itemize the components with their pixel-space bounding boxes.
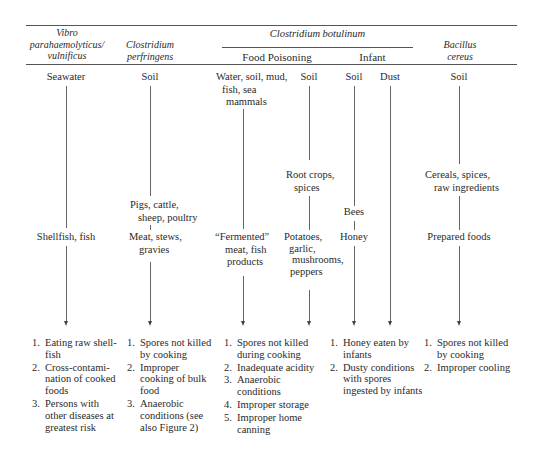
factor-number: 2. xyxy=(32,362,40,374)
factor-text: greatest risk xyxy=(45,422,122,434)
header-bacillus-line: cereus xyxy=(425,51,495,63)
factor-number: 3. xyxy=(32,398,40,410)
factor-item: 2.Cross-contami-nation of cookedfoods xyxy=(32,362,122,397)
factor-text: other diseases at xyxy=(45,410,122,422)
header-vibrio: Vibro parahaemolyticus/ vulnificus xyxy=(26,27,108,62)
source-perfringens: Soil xyxy=(110,71,190,84)
food-line: garlic, xyxy=(284,243,344,255)
factor-text: Improper cooling xyxy=(437,362,524,374)
botulinum-subheader-rule xyxy=(222,47,413,48)
factors-food-poisoning: 1.Spores not killedduring cooking2.Inade… xyxy=(224,337,324,436)
factor-text: canning xyxy=(237,424,324,436)
header-food-poisoning: Food Poisoning xyxy=(222,51,332,64)
flow-line xyxy=(150,86,151,196)
factor-item: 5.Improper homecanning xyxy=(224,412,324,436)
factor-text: conditions (see xyxy=(140,410,217,422)
factor-text: ingested by infants xyxy=(343,385,430,397)
flow-line xyxy=(66,246,67,322)
factor-number: 4. xyxy=(224,399,232,411)
factor-text: Spores not killed xyxy=(237,337,324,349)
factor-text: Improper storage xyxy=(237,399,324,411)
arrow-down-icon xyxy=(388,321,392,326)
food-line: products xyxy=(215,256,269,269)
factor-text: fish xyxy=(45,349,122,361)
flow-line xyxy=(354,86,355,206)
factor-text: Anaerobic xyxy=(140,398,217,410)
flow-line xyxy=(309,290,310,322)
factors-list: 1.Honey eaten byinfants2.Dusty condition… xyxy=(330,337,430,397)
header-bacillus: Bacillus cereus xyxy=(425,39,495,62)
factor-item: 2.Inadequate acidity xyxy=(224,362,324,374)
factors-list: 1.Spores not killedduring cooking2.Inade… xyxy=(224,337,324,435)
arrow-down-icon xyxy=(352,321,356,326)
factor-text: Inadequate acidity xyxy=(237,362,324,374)
factor-text: Persons with xyxy=(45,398,122,410)
factor-text: by cooking xyxy=(437,349,524,361)
factor-number: 1. xyxy=(127,337,135,349)
flow-line xyxy=(150,262,151,322)
flow-line xyxy=(459,246,460,322)
flow-line xyxy=(354,221,355,230)
factors-list: 1.Spores not killedby cooking2.Improper … xyxy=(424,337,524,373)
arrow-down-icon xyxy=(148,321,152,326)
factors-list: 1.Spores not killedby cooking2.Improperc… xyxy=(127,337,217,433)
food-line: peppers xyxy=(284,266,344,278)
food-line: mushrooms, xyxy=(284,254,344,266)
factor-number: 3. xyxy=(127,398,135,410)
header-perfringens: Clostridium perfringens xyxy=(112,39,188,62)
source-vibrio: Seawater xyxy=(26,71,106,84)
header-bottom-rule xyxy=(26,64,517,65)
arrow-down-icon xyxy=(307,321,311,326)
header-vibrio-line: parahaemolyticus/ xyxy=(26,39,108,51)
factor-text: cooking of bulk xyxy=(140,373,217,385)
factor-item: 2.Dusty conditionswith sporesingested by… xyxy=(330,362,430,397)
factors-perfringens: 1.Spores not killedby cooking2.Improperc… xyxy=(127,337,217,434)
flow-line xyxy=(150,225,151,230)
factors-vibrio: 1.Eating raw shell-fish2.Cross-contami-n… xyxy=(32,337,122,434)
flow-line xyxy=(459,86,460,164)
factor-number: 1. xyxy=(424,337,432,349)
source-fp-soil: Soil xyxy=(290,71,328,84)
factor-number: 1. xyxy=(330,337,338,349)
factor-item: 2.Impropercooking of bulkfood xyxy=(127,362,217,397)
intermediate-perfringens: Pigs, cattle, sheep, poultry xyxy=(130,199,198,224)
food-infant-soil: Honey xyxy=(334,231,374,244)
header-perfringens-line: perfringens xyxy=(112,51,188,63)
flow-line xyxy=(243,276,244,322)
header-perfringens-line: Clostridium xyxy=(112,39,188,51)
factor-text: foods xyxy=(45,385,122,397)
factor-text: Spores not killed xyxy=(140,337,217,349)
intermediate-line: Pigs, cattle, xyxy=(130,199,198,212)
arrow-down-icon xyxy=(241,321,245,326)
factor-number: 1. xyxy=(224,337,232,349)
flow-line xyxy=(459,196,460,230)
factor-text: also Figure 2) xyxy=(140,422,217,434)
factor-item: 2.Improper cooling xyxy=(424,362,524,374)
intermediate-line: raw ingredients xyxy=(425,182,499,195)
factor-text: Honey eaten by xyxy=(343,337,430,349)
factor-text: nation of cooked xyxy=(45,373,122,385)
intermediate-line: Cereals, spices, xyxy=(425,169,499,182)
intermediate-line: Root crops, xyxy=(286,169,334,182)
factor-item: 3.Anaerobicconditions xyxy=(224,374,324,398)
factor-item: 1.Honey eaten byinfants xyxy=(330,337,430,361)
source-line: fish, sea xyxy=(216,84,287,97)
food-vibrio: Shellfish, fish xyxy=(26,231,106,244)
food-line: “Fermented” xyxy=(215,231,269,244)
factor-item: 1.Spores not killedby cooking xyxy=(127,337,217,361)
factor-item: 3.Anaerobicconditions (seealso Figure 2) xyxy=(127,398,217,433)
food-perfringens: Meat, stews, gravies xyxy=(129,231,182,256)
factor-text: Improper xyxy=(140,362,217,374)
factors-bacillus: 1.Spores not killedby cooking2.Improper … xyxy=(424,337,524,374)
factors-list: 1.Eating raw shell-fish2.Cross-contami-n… xyxy=(32,337,122,433)
flow-line xyxy=(309,86,310,160)
factor-text: during cooking xyxy=(237,349,324,361)
source-bacillus: Soil xyxy=(429,71,489,84)
factor-text: Spores not killed xyxy=(437,337,524,349)
intermediate-bacillus: Cereals, spices, raw ingredients xyxy=(425,169,499,194)
flow-line xyxy=(354,246,355,322)
factor-text: food xyxy=(140,385,217,397)
source-infant-dust: Dust xyxy=(371,71,409,84)
food-fp-water: “Fermented” meat, fish products xyxy=(215,231,269,269)
factor-item: 1.Spores not killedduring cooking xyxy=(224,337,324,361)
